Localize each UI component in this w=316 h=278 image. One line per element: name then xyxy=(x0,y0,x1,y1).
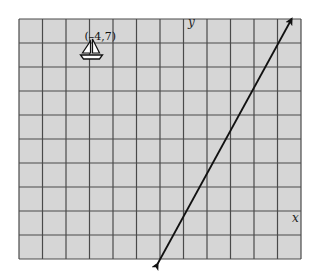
point-coordinate-label: (–4,7) xyxy=(85,30,117,43)
y-axis-label: y xyxy=(187,15,195,29)
coordinate-grid-figure: y x (–4,7) xyxy=(0,0,316,278)
grid-svg: y x (–4,7) xyxy=(0,0,316,278)
x-axis-label: x xyxy=(292,211,299,225)
